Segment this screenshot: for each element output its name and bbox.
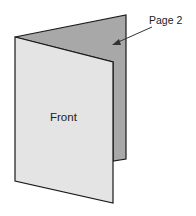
front-label: Front (50, 111, 78, 123)
page-2-label: Page 2 (149, 14, 182, 26)
folded-brochure-diagram: Page 2 Front (0, 0, 196, 216)
